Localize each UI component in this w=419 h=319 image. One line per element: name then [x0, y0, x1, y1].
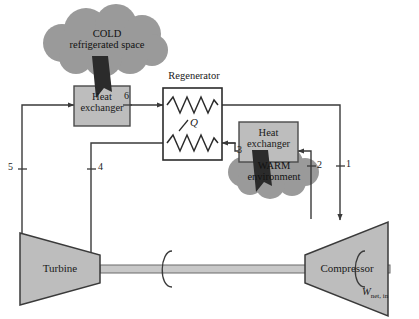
work-symbol: W [362, 286, 371, 297]
turbine-label: Turbine [26, 263, 94, 275]
warm-environment-label: WARM environment [224, 160, 324, 182]
hx-cold-line1: Heat [92, 91, 112, 102]
heat-exchanger-warm-label: Heat exchanger [239, 127, 298, 149]
hx-cold-line2: exchanger [80, 102, 123, 113]
heat-exchanger-cold-label: Heat exchanger [74, 91, 130, 113]
hx-warm-line2: exchanger [247, 138, 290, 149]
compressor-label: Compressor [308, 263, 386, 275]
work-net-in-label: Wnet, in [362, 286, 388, 300]
heat-transfer-symbol: Q [190, 117, 198, 129]
state-label-5: 5 [8, 162, 13, 173]
state-label-6: 6 [124, 91, 129, 102]
regenerator-title: Regenerator [152, 70, 236, 81]
hx-warm-line1: Heat [259, 127, 279, 138]
state-label-3: 3 [237, 145, 242, 156]
warm-env-line2: environment [247, 171, 300, 182]
gas-refrigeration-cycle-diagram: COLD refrigerated space WARM environment… [0, 0, 419, 319]
warm-env-line1: WARM [258, 160, 291, 171]
cold-space-line1: COLD [93, 28, 122, 39]
state-label-2: 2 [317, 160, 322, 171]
work-subscript: net, in [371, 292, 389, 300]
cold-space-label: COLD refrigerated space [54, 28, 160, 50]
cold-space-line2: refrigerated space [70, 39, 145, 50]
state-label-4: 4 [98, 162, 103, 173]
state-label-1: 1 [346, 159, 351, 170]
